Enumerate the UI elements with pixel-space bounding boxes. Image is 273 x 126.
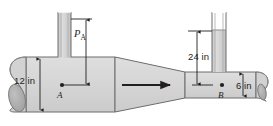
label-head-right: 24 in: [188, 52, 209, 62]
figure-canvas: 12 in 24 in 6 in PA A B: [0, 0, 273, 126]
right-broken-pipe-end: [256, 72, 268, 101]
left-piezometer-tube: [58, 12, 71, 58]
label-pressure-a: PA: [74, 29, 86, 42]
label-point-a: A: [57, 91, 63, 100]
large-diameter-pipe-section: [26, 57, 115, 112]
label-diameter-right: 6 in: [236, 81, 252, 91]
left-pipe-body: [26, 57, 115, 112]
right-tube-fluid-column: [212, 30, 226, 72]
label-pressure-a-subscript: A: [80, 33, 85, 42]
point-a-marker: [60, 83, 64, 87]
pipe-diagram-svg: [0, 0, 273, 126]
left-tube-fill: [58, 12, 71, 58]
point-b-marker: [220, 83, 224, 87]
label-point-b: B: [218, 91, 224, 100]
label-diameter-left: 12 in: [14, 76, 35, 86]
right-piezometer-tube: [212, 12, 226, 72]
